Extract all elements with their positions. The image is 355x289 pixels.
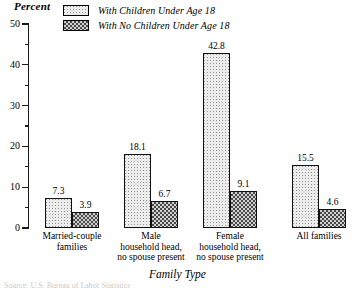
bar-value-label: 7.3 <box>41 186 76 196</box>
y-tick-major <box>22 187 29 188</box>
y-tick-label-text: 40 <box>0 60 20 70</box>
bar-value-label: 18.1 <box>120 142 155 152</box>
y-tick-label: 0 <box>0 223 20 233</box>
source-note: Source: U.S. Bureau of Labor Statistics <box>4 281 130 289</box>
bar-value-label: 42.8 <box>199 41 234 51</box>
y-tick-minor <box>25 166 29 167</box>
y-tick-major <box>22 64 29 65</box>
y-tick-label: 10 <box>0 182 20 192</box>
bar-value-label: 15.5 <box>288 153 323 163</box>
bar <box>151 201 178 228</box>
bar-value-label: 6.7 <box>147 189 182 199</box>
bar-chart: Percent With Children Under Age 18 With … <box>0 0 355 289</box>
y-tick-label: 40 <box>0 60 20 70</box>
y-tick-major <box>22 23 29 24</box>
x-axis-title: Family Type <box>0 268 355 280</box>
y-tick-minor <box>25 85 29 86</box>
plot-area: 01020304050 7.33.918.16.742.89.115.54.6 … <box>0 0 355 289</box>
bar <box>319 209 346 228</box>
y-tick-minor <box>25 44 29 45</box>
y-tick-minor <box>25 207 29 208</box>
bar <box>203 53 230 228</box>
y-tick-major <box>22 227 29 228</box>
x-axis-category-label: All families <box>283 231 355 242</box>
y-tick-label: 50 <box>0 19 20 29</box>
y-tick-minor <box>25 125 29 126</box>
y-tick-label: 30 <box>0 101 20 111</box>
y-tick-label-text: 50 <box>0 19 20 29</box>
y-tick-label-text: 0 <box>0 223 20 233</box>
bar-value-label: 4.6 <box>315 197 350 207</box>
y-tick-label: 20 <box>0 141 20 151</box>
y-tick-label-text: 20 <box>0 141 20 151</box>
y-tick-label-text: 30 <box>0 101 20 111</box>
y-tick-major <box>22 146 29 147</box>
bar-value-label: 3.9 <box>68 200 103 210</box>
bar <box>72 212 99 228</box>
bar <box>230 191 257 228</box>
bar-value-label: 9.1 <box>226 179 261 189</box>
y-tick-major <box>22 105 29 106</box>
y-tick-label-text: 10 <box>0 182 20 192</box>
x-axis-category-label: Female household head, no spouse present <box>180 231 280 263</box>
